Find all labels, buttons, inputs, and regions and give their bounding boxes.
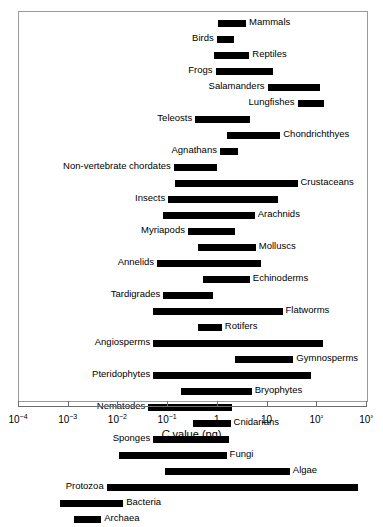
bar-row: Crustaceans (19, 176, 367, 192)
x-tick (18, 401, 19, 407)
bar-label: Insects (135, 190, 165, 206)
bar-row: Flatworms (19, 304, 367, 320)
bar-row: Frogs (19, 64, 367, 80)
bar-row: Archaea (19, 512, 367, 527)
range-bar (175, 180, 297, 187)
bar-row: Arachnids (19, 208, 367, 224)
bar-label: Pteridophytes (92, 366, 150, 382)
x-tick-label: 10³ (359, 414, 372, 425)
bar-row: Salamanders (19, 80, 367, 96)
bar-label: Mammals (249, 14, 290, 30)
bar-row: Bryophytes (19, 384, 367, 400)
bar-label: Teleosts (157, 110, 192, 126)
bar-row: Lungfishes (19, 96, 367, 112)
x-tick-label: 10−2 (108, 414, 127, 425)
x-tick-label: 10−3 (58, 414, 77, 425)
range-bar (60, 500, 124, 507)
bar-label: Echinoderms (253, 270, 308, 286)
range-bar (195, 116, 250, 123)
bar-label: Algae (293, 462, 317, 478)
range-bar (214, 52, 249, 59)
range-bar (298, 100, 324, 107)
bar-label: Rotifers (225, 318, 258, 334)
x-tick-label: 10−4 (8, 414, 27, 425)
x-tick-label: 10 (261, 414, 272, 425)
range-bar (188, 228, 235, 235)
bar-label: Lungfishes (249, 94, 295, 110)
x-axis-title: C value (pg) (0, 428, 383, 440)
bar-label: Agnathans (171, 142, 216, 158)
range-bar (203, 276, 250, 283)
bar-label: Flatworms (286, 302, 330, 318)
x-tick (366, 401, 367, 407)
x-tick (117, 401, 118, 407)
bar-label: Frogs (188, 62, 212, 78)
range-bar (227, 132, 281, 139)
bar-label: Reptiles (252, 46, 286, 62)
bar-label: Tardigrades (111, 286, 161, 302)
x-tick (267, 401, 268, 407)
range-bar (198, 324, 222, 331)
bar-row: Annelids (19, 256, 367, 272)
bar-row: Rotifers (19, 320, 367, 336)
x-tick (316, 401, 317, 407)
x-tick-label: 10² (310, 414, 323, 425)
range-bar (220, 148, 238, 155)
bar-row: Bacteria (19, 496, 367, 512)
range-bar (193, 420, 230, 427)
x-tick (167, 401, 168, 407)
range-bar (163, 212, 254, 219)
x-axis: 10−410−310−210−111010²10³ (18, 406, 366, 407)
x-tick (68, 401, 69, 407)
bar-row: Echinoderms (19, 272, 367, 288)
range-bar (217, 36, 234, 43)
bar-row: Protozoa (19, 480, 367, 496)
bar-label: Birds (192, 30, 214, 46)
range-bar (165, 468, 289, 475)
bar-label: Bacteria (126, 494, 161, 510)
bar-row: Insects (19, 192, 367, 208)
bar-label: Chondrichthyes (283, 126, 349, 142)
x-axis-title-text: value (pg) (169, 428, 221, 440)
range-bar (216, 68, 274, 75)
bar-label: Bryophytes (255, 382, 303, 398)
bar-label: Arachnids (258, 206, 300, 222)
plot-frame: MammalsBirdsReptilesFrogsSalamandersLung… (18, 11, 368, 402)
x-tick-label: 10−1 (158, 414, 177, 425)
range-bar (119, 452, 226, 459)
bar-row: Pteridophytes (19, 368, 367, 384)
range-bar (157, 260, 261, 267)
bar-label: Crustaceans (301, 174, 354, 190)
range-bar (163, 292, 213, 299)
range-bar (174, 164, 217, 171)
bar-row: Molluscs (19, 240, 367, 256)
range-bar (198, 244, 256, 251)
range-bar (107, 484, 358, 491)
bar-label: Protozoa (66, 478, 104, 494)
range-bar (218, 20, 246, 27)
bar-row: Birds (19, 32, 367, 48)
x-tick-label: 1 (214, 414, 220, 425)
bar-label: Molluscs (259, 238, 296, 254)
range-bar (74, 516, 102, 523)
range-bar (268, 84, 321, 91)
x-tick (217, 401, 218, 407)
bar-row: Myriapods (19, 224, 367, 240)
range-bar (235, 356, 293, 363)
bar-label: Gymnosperms (296, 350, 358, 366)
bar-label: Annelids (118, 254, 154, 270)
range-bar (153, 372, 311, 379)
bar-label: Archaea (104, 510, 139, 526)
bar-label: Non-vertebrate chordates (63, 158, 171, 174)
bar-label: Myriapods (141, 222, 185, 238)
range-bar (153, 340, 323, 347)
range-bar (153, 308, 282, 315)
range-bar (168, 196, 278, 203)
bar-label: Fungi (230, 446, 254, 462)
range-bar (181, 388, 252, 395)
bar-label: Angiosperms (95, 334, 150, 350)
bar-label: Salamanders (209, 78, 265, 94)
bar-row: Gymnosperms (19, 352, 367, 368)
